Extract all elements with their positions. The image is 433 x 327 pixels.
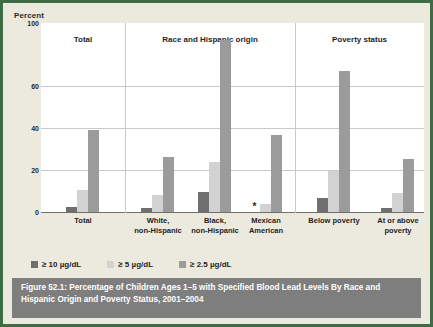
y-tick-40: 40 [13, 125, 39, 132]
section-header-total: Total [41, 35, 125, 44]
section-header-poverty: Poverty status [295, 35, 424, 44]
x-label-mexican-american: Mexican American [234, 216, 298, 236]
legend-label-ge10: ≥ 10 µg/dL [42, 260, 81, 269]
x-label-at-or-above-poverty: At or above poverty [366, 216, 430, 236]
legend-item-ge2_5: ≥ 2.5 µg/dL [179, 260, 231, 269]
y-tick-100: 100 [13, 20, 39, 27]
x-label-below-poverty: Below poverty [299, 216, 369, 226]
y-tick-60: 60 [13, 83, 39, 90]
legend-swatch-ge2_5 [179, 261, 186, 268]
x-label-total-line1: Total [51, 216, 115, 226]
x-label-at-or-above-line2: poverty [366, 226, 430, 236]
section-headers: Total Race and Hispanic origin Poverty s… [41, 23, 424, 53]
x-label-white-line2: non-Hispanic [126, 226, 190, 236]
figure-frame: Percent 100 60 40 20 0 Total Race and Hi… [0, 0, 433, 327]
legend-swatch-ge5 [107, 261, 114, 268]
x-label-total: Total [51, 216, 115, 226]
x-label-below-poverty-line1: Below poverty [299, 216, 369, 226]
x-label-mexican-line2: American [234, 226, 298, 236]
legend-item-ge10: ≥ 10 µg/dL [31, 260, 81, 269]
legend-item-ge5: ≥ 5 µg/dL [107, 260, 153, 269]
gridline-20 [41, 170, 424, 171]
y-tick-0: 0 [13, 209, 39, 216]
axis-baseline [41, 212, 424, 213]
legend-swatch-ge10 [31, 261, 38, 268]
gridline-40 [41, 128, 424, 129]
x-label-mexican-line1: Mexican [234, 216, 298, 226]
x-label-at-or-above-line1: At or above [366, 216, 430, 226]
plot-region: Percent 100 60 40 20 0 Total Race and Hi… [13, 11, 424, 258]
x-label-white-non-hispanic: White, non-Hispanic [126, 216, 190, 236]
y-tick-20: 20 [13, 167, 39, 174]
y-axis-ticks: 100 60 40 20 0 [13, 23, 39, 213]
legend-label-ge2_5: ≥ 2.5 µg/dL [190, 260, 231, 269]
legend-label-ge5: ≥ 5 µg/dL [118, 260, 153, 269]
gridline-60 [41, 86, 424, 87]
figure-caption-text: Figure 52.1: Percentage of Children Ages… [21, 282, 413, 306]
chart-legend: ≥ 10 µg/dL ≥ 5 µg/dL ≥ 2.5 µg/dL [31, 256, 426, 272]
figure-caption-bar: Figure 52.1: Percentage of Children Ages… [12, 278, 421, 318]
x-axis-labels: Total White, non-Hispanic Black, non-His… [41, 216, 424, 256]
section-header-race: Race and Hispanic origin [125, 35, 295, 44]
x-label-white-line1: White, [126, 216, 190, 226]
